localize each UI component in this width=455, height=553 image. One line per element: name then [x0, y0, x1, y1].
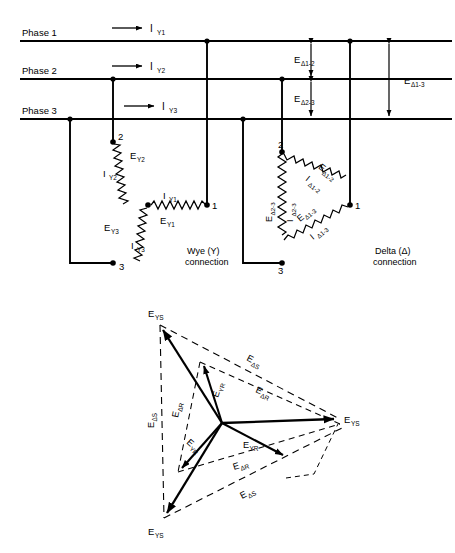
phasor-delta-s-upper-subscript: ΔS	[250, 360, 261, 370]
wye-ey2-symbol: E	[130, 150, 136, 161]
phasor-delta-s-left-symbol: E	[146, 422, 156, 428]
wye-iy3-label: I Y3	[131, 240, 145, 253]
junction-dot-phase3-wye	[67, 116, 72, 121]
phasor-delta-s-upper-label: E ΔS	[244, 353, 263, 371]
phasor-delta-r-left-line	[178, 362, 200, 472]
phase3-to-node3-conductor	[70, 119, 113, 263]
phasor-ys-top-vector	[163, 330, 222, 423]
junction-dot-phase2-delta	[279, 76, 284, 81]
wye-caption-line2: connection	[185, 257, 229, 267]
phasor-delta-r-left-subscript: ΔR	[176, 402, 185, 412]
iy2-label: I Y2	[150, 61, 165, 74]
phasor-yr-up-subscript: YR	[217, 382, 227, 393]
phase3-to-delta-node3-conductor	[243, 119, 282, 263]
wye-iy1-label: I Y1	[163, 190, 177, 203]
delta-e12-subscript: Δ1-2	[321, 169, 336, 183]
wye-ey3-label: E Y3	[104, 222, 119, 235]
delta-node-1-label: 1	[355, 200, 360, 211]
wye-iy2-symbol: I	[103, 168, 106, 179]
wye-node-2-label: 2	[118, 131, 123, 142]
delta-node-1-dot	[347, 202, 353, 208]
junction-dot-phase2-wye	[110, 76, 115, 81]
wye-iy1-symbol: I	[163, 190, 166, 201]
phasor-yr-right-subscript: YR	[250, 445, 259, 452]
delta-i13-subscript: Δ1-3	[315, 225, 330, 239]
delta-e23-subscript: Δ2-3	[269, 202, 276, 216]
delta-caption-line2: connection	[373, 257, 417, 267]
phasor-delta-s-left-subscript: ΔS	[151, 413, 158, 422]
e-delta-1-2-symbol: E	[294, 54, 300, 65]
iy1-symbol: I	[150, 23, 153, 34]
e-delta-2-3-label: E Δ2-3	[294, 93, 315, 106]
phasor-diagram: E YS E YS E YS E YR E YR E YR E ΔS	[146, 308, 360, 539]
line-current-arrows	[112, 28, 154, 106]
phasor-outer-bottom-label: E YS	[148, 526, 164, 539]
delta-caption-line1: Delta (Δ)	[375, 246, 411, 256]
wye-node-3-dot	[110, 260, 116, 266]
phasor-outer-top-symbol: E	[148, 308, 154, 319]
delta-i13-label: I Δ1-3	[308, 222, 330, 243]
phase3-label: Phase 3	[22, 105, 57, 116]
wye-node-3-label: 3	[119, 261, 124, 272]
phasor-ys-bottom-vector	[167, 423, 222, 513]
phasor-outer-right-label: E YS	[344, 414, 360, 427]
wye-ey3-symbol: E	[104, 222, 110, 233]
wye-node-1-label: 1	[212, 200, 217, 211]
delta-i23-label: I Δ2-3	[285, 203, 297, 222]
wye-winding-1-coil	[151, 201, 206, 209]
figure-root: Phase 1 Phase 2 Phase 3 I Y1 I Y2 I Y3	[0, 0, 455, 553]
phasor-delta-s-lower-subscript: ΔS	[246, 489, 257, 499]
delta-winding-1-2	[284, 154, 346, 178]
iy1-subscript: Y1	[157, 29, 165, 36]
wye-ey3-subscript: Y3	[111, 228, 119, 235]
delta-node-3-label: 3	[278, 265, 283, 276]
wye-ey2-subscript: Y2	[137, 156, 145, 163]
wye-neutral-dot	[145, 202, 151, 208]
junction-dot-phase1-wye	[204, 38, 209, 43]
wye-iy2-subscript: Y2	[109, 174, 117, 181]
wye-iy3-subscript: Y3	[137, 246, 145, 253]
wye-iy2-label: I Y2	[103, 168, 117, 181]
phasor-delta-s-left-line	[160, 325, 164, 518]
phasor-delta-s-lower-label: E ΔS	[238, 485, 257, 503]
wye-winding-3	[134, 208, 147, 261]
e-delta-2-3-subscript: Δ2-3	[301, 99, 315, 106]
phasor-delta-r-lower-subscript: ΔR	[239, 462, 250, 471]
delta-e13-subscript: Δ1-3	[303, 207, 318, 221]
e-delta-1-3-symbol: E	[404, 75, 410, 86]
e-delta-1-3-subscript: Δ1-3	[411, 81, 425, 88]
delta-node-2-label: 2	[278, 139, 283, 150]
phasor-delta-r-lower-label: E ΔR	[232, 458, 251, 474]
delta-node-2-dot	[279, 149, 285, 155]
phasor-delta-s-left-label: E ΔS	[146, 413, 158, 428]
iy2-subscript: Y2	[157, 67, 165, 74]
phasor-outer-right-symbol: E	[344, 414, 350, 425]
phasor-outer-bottom-symbol: E	[148, 526, 154, 537]
phasor-delta-r-lower-line	[178, 424, 340, 472]
delta-winding-1-2-coil	[284, 154, 346, 178]
wye-drop-conductors	[70, 41, 207, 263]
e-delta-2-3-symbol: E	[294, 93, 300, 104]
iy3-subscript: Y3	[169, 107, 177, 114]
iy1-label: I Y1	[150, 23, 165, 36]
bus-lines	[20, 41, 452, 119]
three-phase-connection-diagram: Phase 1 Phase 2 Phase 3 I Y1 I Y2 I Y3	[0, 0, 455, 553]
phase2-label: Phase 2	[22, 65, 57, 76]
phasor-delta-s-upper-line	[160, 325, 338, 418]
phasor-delta-r-upper-subscript: ΔR	[259, 392, 270, 402]
junction-dot-phase3-delta	[240, 116, 245, 121]
iy2-symbol: I	[150, 61, 153, 72]
phase1-label: Phase 1	[22, 27, 57, 38]
junction-dot-phase1-delta	[347, 38, 352, 43]
wye-node-2-dot	[110, 139, 116, 145]
iy3-symbol: I	[162, 101, 165, 112]
e-delta-1-3-label: E Δ1-3	[404, 75, 425, 88]
phasor-yr-right-symbol: E	[243, 440, 249, 450]
phasor-outer-top-subscript: YS	[155, 314, 164, 321]
wye-iy3-symbol: I	[131, 240, 134, 251]
phasor-yr-up-label: E YR	[210, 380, 226, 399]
wye-ey1-symbol: E	[160, 215, 166, 226]
wye-ey2-label: E Y2	[130, 150, 145, 163]
phasor-ys-right-vector	[222, 419, 334, 423]
wye-winding-1	[151, 201, 206, 209]
